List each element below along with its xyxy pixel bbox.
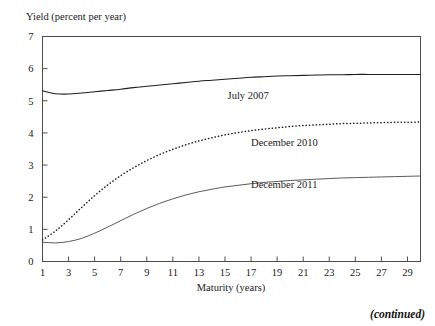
x-tick-label: 15	[220, 267, 231, 278]
x-tick-label: 3	[66, 267, 71, 278]
x-tick-label: 17	[246, 267, 257, 278]
x-tick-label: 5	[92, 267, 97, 278]
y-tick-label: 4	[28, 128, 34, 139]
y-tick-label: 5	[28, 96, 33, 107]
series-label-1: July 2007	[228, 90, 269, 101]
y-tick-label: 2	[28, 192, 33, 203]
y-tick-label: 1	[28, 224, 33, 235]
y-tick-label: 7	[28, 31, 33, 42]
series-annotations: July 2007December 2010December 2011	[228, 90, 318, 190]
series-label-3: December 2011	[251, 179, 317, 190]
yield-curve-figure: Yield (percent per year) 01234567 135791…	[0, 0, 435, 326]
series-line-2	[43, 122, 421, 240]
x-tick-label: 11	[168, 267, 178, 278]
continued-note: (continued)	[370, 308, 425, 320]
series-line-3	[43, 176, 421, 243]
y-tick-label: 6	[28, 63, 33, 74]
y-tick-label: 0	[28, 256, 33, 267]
x-tick-label: 9	[144, 267, 149, 278]
x-tick-label: 29	[402, 267, 413, 278]
yield-curve-chart: 01234567 1357911131517192123252729 July …	[0, 0, 435, 326]
x-axis-ticks: 1357911131517192123252729	[40, 257, 413, 278]
x-tick-label: 13	[194, 267, 205, 278]
x-tick-label: 7	[118, 267, 123, 278]
x-tick-label: 25	[350, 267, 361, 278]
x-tick-label: 21	[298, 267, 309, 278]
y-axis-ticks: 01234567	[28, 31, 47, 267]
y-tick-label: 3	[28, 160, 33, 171]
x-axis-title: Maturity (years)	[197, 282, 266, 294]
x-tick-label: 27	[376, 267, 387, 278]
x-tick-label: 1	[40, 267, 45, 278]
series-label-2: December 2010	[251, 137, 318, 148]
plot-frame	[43, 37, 421, 262]
x-tick-label: 19	[272, 267, 283, 278]
x-tick-label: 23	[324, 267, 335, 278]
